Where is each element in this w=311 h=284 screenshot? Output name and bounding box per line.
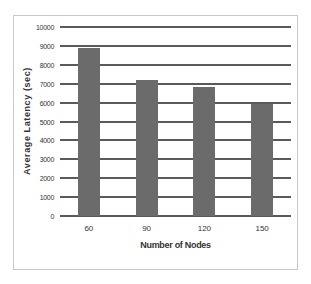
y-tick-label: 7000 xyxy=(14,80,54,87)
x-tick-label: 120 xyxy=(189,224,219,233)
bar xyxy=(136,80,158,216)
y-tick-label: 4000 xyxy=(14,137,54,144)
y-tick-label: 5000 xyxy=(14,118,54,125)
bar xyxy=(78,48,100,216)
x-tick-label: 150 xyxy=(247,224,277,233)
y-tick-label: 9000 xyxy=(14,42,54,49)
bar xyxy=(251,104,273,216)
x-tick-label: 60 xyxy=(74,224,104,233)
y-tick-label: 0 xyxy=(14,213,54,220)
y-tick-label: 3000 xyxy=(14,156,54,163)
gridline xyxy=(60,26,291,28)
y-tick-label: 1000 xyxy=(14,194,54,201)
y-tick-label: 8000 xyxy=(14,61,54,68)
plot-area xyxy=(60,27,291,216)
y-tick-label: 6000 xyxy=(14,99,54,106)
y-tick-label: 2000 xyxy=(14,175,54,182)
bar xyxy=(193,87,215,216)
x-axis-label: Number of Nodes xyxy=(60,240,291,250)
y-tick-label: 10000 xyxy=(14,24,54,31)
x-tick-label: 90 xyxy=(132,224,162,233)
gridline xyxy=(60,45,291,47)
